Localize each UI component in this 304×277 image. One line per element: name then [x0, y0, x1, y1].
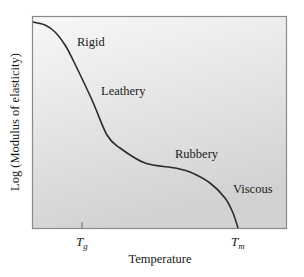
x-tick-tg: Tg	[76, 234, 88, 251]
region-label-rigid: Rigid	[77, 35, 105, 50]
region-label-rubbery: Rubbery	[175, 147, 218, 162]
chart: Rigid Leathery Rubbery Viscous Tg Tm Tem…	[0, 0, 304, 277]
plot-svg	[0, 0, 304, 277]
x-axis-label: Temperature	[129, 252, 192, 267]
y-axis-label: Log (Modulus of elasticity)	[8, 53, 23, 191]
region-label-leathery: Leathery	[101, 84, 145, 99]
x-tick-tm: Tm	[231, 234, 245, 251]
region-label-viscous: Viscous	[233, 182, 273, 197]
